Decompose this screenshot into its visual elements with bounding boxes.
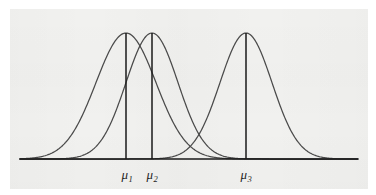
mu-2-axis-label: μ2 <box>147 168 158 181</box>
mu-subscript: 2 <box>153 174 157 184</box>
mu-glyph: μ <box>241 167 248 182</box>
density-curves-group <box>20 33 358 159</box>
mu-subscript: 3 <box>247 174 251 184</box>
figure-container: μ1 μ2 μ3 <box>0 0 376 195</box>
normal-curve-3 <box>20 33 358 159</box>
normal-curve-2 <box>20 33 358 159</box>
normal-curve-1 <box>20 33 358 159</box>
mu-glyph: μ <box>122 167 129 182</box>
mu-subscript: 1 <box>128 174 132 184</box>
mu-3-axis-label: μ3 <box>241 168 252 181</box>
mean-vertical-lines-group <box>126 33 246 159</box>
normal-curves-plot <box>0 0 376 195</box>
mu-glyph: μ <box>147 167 154 182</box>
mu-1-axis-label: μ1 <box>122 168 133 181</box>
